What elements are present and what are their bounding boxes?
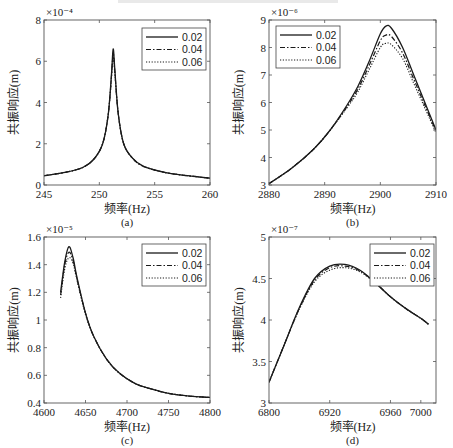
y-tick-label: 3.5 bbox=[252, 356, 266, 368]
y-tick-label: 1.6 bbox=[27, 231, 41, 243]
y-tick-label: 4.5 bbox=[252, 273, 266, 285]
y-tick-label: 0.4 bbox=[27, 397, 41, 409]
legend-entry-label: 0.04 bbox=[182, 259, 203, 271]
legend-entry-label: 0.06 bbox=[182, 56, 203, 68]
y-tick-label: 3 bbox=[261, 179, 267, 191]
y-tick-label: 8 bbox=[261, 42, 267, 54]
subplot-caption: (b) bbox=[346, 216, 359, 229]
y-exponent-label: ×10⁻⁴ bbox=[46, 6, 73, 18]
legend-entry-label: 0.06 bbox=[316, 54, 337, 66]
y-tick-label: 9 bbox=[261, 14, 267, 26]
legend-entry-label: 0.02 bbox=[410, 247, 431, 259]
subplot-caption: (a) bbox=[121, 216, 134, 229]
legend-entry-label: 0.06 bbox=[410, 272, 431, 284]
y-tick-label: 0.6 bbox=[27, 369, 41, 381]
y-tick-label: 3 bbox=[261, 397, 267, 409]
y-tick-label: 1.2 bbox=[27, 286, 41, 298]
y-exponent-label: ×10⁻⁵ bbox=[46, 223, 73, 235]
legend-entry-label: 0.02 bbox=[316, 29, 337, 41]
y-tick-label: 6 bbox=[261, 97, 267, 109]
subplot-caption: (d) bbox=[346, 434, 359, 447]
x-axis-label: 频率(Hz) bbox=[330, 201, 376, 216]
y-tick-label: 6 bbox=[36, 55, 42, 67]
figure-canvas: 24525025526002468×10⁻⁴频率(Hz)(a)共振响应(m)0.… bbox=[0, 0, 453, 448]
series-line-0.06 bbox=[44, 57, 210, 178]
x-tick-label: 4800 bbox=[199, 406, 222, 418]
x-tick-label: 6920 bbox=[319, 406, 342, 418]
y-tick-label: 5 bbox=[261, 124, 267, 136]
legend-entry-label: 0.02 bbox=[182, 31, 203, 43]
y-tick-label: 0 bbox=[36, 179, 42, 191]
y-axis-label: 共振响应(m) bbox=[6, 70, 21, 135]
x-tick-label: 6960 bbox=[379, 406, 402, 418]
legend-entry-label: 0.06 bbox=[182, 272, 203, 284]
y-tick-label: 5 bbox=[261, 231, 267, 243]
subplot-caption: (c) bbox=[121, 434, 134, 447]
y-exponent-label: ×10⁻⁷ bbox=[271, 223, 298, 235]
legend: 0.020.040.06 bbox=[276, 26, 340, 68]
y-tick-label: 4 bbox=[36, 97, 42, 109]
x-tick-label: 4750 bbox=[158, 406, 181, 418]
subplot-c: 460046504700475048000.40.60.811.21.41.6×… bbox=[6, 223, 222, 447]
y-tick-label: 4 bbox=[261, 314, 267, 326]
y-tick-label: 1.4 bbox=[27, 259, 41, 271]
subplot-d: 680069206960700033.544.55×10⁻⁷频率(Hz)(d)共… bbox=[231, 223, 436, 447]
y-axis-label: 共振响应(m) bbox=[231, 287, 246, 352]
y-tick-label: 8 bbox=[36, 14, 42, 26]
y-tick-label: 1 bbox=[36, 314, 42, 326]
legend: 0.020.040.06 bbox=[142, 244, 206, 286]
legend: 0.020.040.06 bbox=[142, 28, 206, 70]
x-tick-label: 4650 bbox=[75, 406, 98, 418]
legend-entry-label: 0.04 bbox=[410, 259, 431, 271]
legend-entry-label: 0.04 bbox=[316, 41, 337, 53]
subplot-b: 28802890290029103456789×10⁻⁶频率(Hz)(b)共振响… bbox=[231, 6, 448, 229]
y-axis-label: 共振响应(m) bbox=[6, 287, 21, 352]
x-tick-label: 7000 bbox=[410, 406, 433, 418]
subplot-a: 24525025526002468×10⁻⁴频率(Hz)(a)共振响应(m)0.… bbox=[6, 6, 219, 229]
x-axis-label: 频率(Hz) bbox=[104, 201, 150, 216]
x-tick-label: 2890 bbox=[314, 188, 337, 200]
legend: 0.020.040.06 bbox=[370, 244, 434, 286]
y-tick-label: 4 bbox=[261, 152, 267, 164]
y-axis-label: 共振响应(m) bbox=[231, 70, 246, 135]
y-tick-label: 0.8 bbox=[27, 342, 41, 354]
x-tick-label: 2900 bbox=[369, 188, 392, 200]
series-line-0.04 bbox=[44, 53, 210, 178]
y-exponent-label: ×10⁻⁶ bbox=[271, 6, 298, 18]
x-tick-label: 250 bbox=[91, 188, 108, 200]
x-axis-label: 频率(Hz) bbox=[104, 419, 150, 434]
x-tick-label: 4700 bbox=[116, 406, 139, 418]
x-tick-label: 255 bbox=[146, 188, 163, 200]
x-tick-label: 2910 bbox=[425, 188, 448, 200]
y-tick-label: 2 bbox=[36, 138, 42, 150]
legend-entry-label: 0.02 bbox=[182, 247, 203, 259]
x-tick-label: 260 bbox=[202, 188, 219, 200]
y-tick-label: 7 bbox=[261, 69, 267, 81]
x-axis-label: 频率(Hz) bbox=[330, 419, 376, 434]
legend-entry-label: 0.04 bbox=[182, 43, 203, 55]
